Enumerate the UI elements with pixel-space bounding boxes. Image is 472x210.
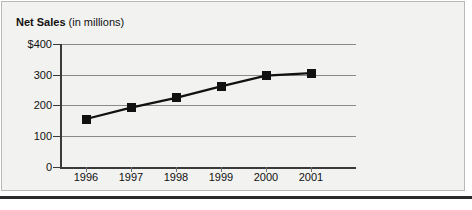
x-axis-labels: 1996 1997 1998 1999 2000 2001 — [60, 0, 460, 190]
y-tick-300 — [53, 75, 60, 76]
y-tick-label-400: $400 — [28, 39, 52, 50]
bottom-divider — [0, 196, 472, 199]
y-tick-100 — [53, 136, 60, 137]
y-tick-200 — [53, 105, 60, 106]
x-tick-label-1999: 1999 — [201, 172, 241, 183]
y-tick-label-300: 300 — [34, 70, 52, 81]
chart-figure: Net Sales (in millions) $400 300 200 100… — [0, 0, 472, 210]
y-tick-label-100: 100 — [34, 131, 52, 142]
y-tick-400 — [53, 44, 60, 45]
x-tick-label-1996: 1996 — [66, 172, 106, 183]
x-tick-label-1997: 1997 — [111, 172, 151, 183]
y-tick-label-0: 0 — [46, 162, 52, 173]
x-tick-label-2000: 2000 — [246, 172, 286, 183]
y-axis-labels: $400 300 200 100 0 — [0, 0, 52, 190]
x-tick-label-1998: 1998 — [156, 172, 196, 183]
y-tick-label-200: 200 — [34, 100, 52, 111]
x-tick-label-2001: 2001 — [291, 172, 331, 183]
y-tick-0 — [53, 167, 60, 168]
